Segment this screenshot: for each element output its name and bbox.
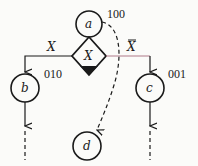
node-a-code: 100: [107, 7, 125, 21]
right-branch-label: X: [126, 40, 136, 54]
decision-diamond: X: [72, 37, 106, 75]
state-diagram: a 100 X X X b 010 c 001 d: [0, 0, 198, 166]
node-b-label: b: [21, 81, 29, 95]
node-a-label: a: [85, 17, 92, 31]
node-a: a: [76, 11, 102, 37]
decision-label: X: [83, 49, 93, 63]
left-branch-label: X: [46, 40, 56, 54]
node-b-code: 010: [44, 67, 62, 81]
node-c: c: [136, 74, 164, 102]
dashed-transition-a-to-d: [97, 22, 119, 130]
node-c-label: c: [146, 81, 153, 95]
node-c-code: 001: [168, 67, 186, 81]
node-d: d: [73, 132, 101, 160]
node-d-label: d: [83, 139, 91, 153]
node-b: b: [11, 74, 39, 102]
